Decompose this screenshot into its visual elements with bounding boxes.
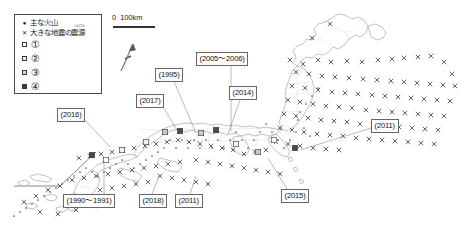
volcano-dot-icon bbox=[127, 163, 129, 165]
callout-c2015[interactable]: (2015) bbox=[281, 189, 309, 203]
region-hokkaido bbox=[293, 14, 386, 66]
earthquake-cross-icon bbox=[142, 166, 146, 170]
legend-rank-3-label: ③ bbox=[31, 68, 40, 78]
earthquake-cross-icon bbox=[435, 98, 439, 102]
legend-rank-1-label: ① bbox=[31, 40, 40, 50]
callout-c2018[interactable]: (2018) bbox=[139, 194, 167, 208]
map-screenshot: .coast{fill:#ffffff;stroke:#8f8f8f;strok… bbox=[0, 0, 464, 226]
earthquake-cross-icon bbox=[442, 114, 446, 118]
earthquake-cross-icon bbox=[441, 83, 445, 87]
square-rank-2-icon bbox=[19, 56, 30, 62]
earthquake-cross-icon bbox=[343, 91, 347, 95]
earthquake-cross-icon bbox=[416, 112, 420, 116]
square-rank-3-icon bbox=[162, 129, 167, 134]
volcano-dot-icon bbox=[247, 147, 249, 149]
earthquake-cross-icon bbox=[266, 170, 270, 174]
earthquake-cross-icon bbox=[154, 142, 158, 146]
volcano-dot-icon bbox=[31, 203, 33, 205]
earthquake-cross-icon bbox=[450, 72, 454, 76]
earthquake-cross-icon bbox=[410, 126, 414, 130]
earthquake-cross-icon bbox=[319, 118, 323, 122]
callout-leader-line bbox=[268, 158, 287, 189]
callout-c2005[interactable]: (2005〜2006) bbox=[196, 52, 248, 66]
earthquake-cross-icon bbox=[416, 55, 420, 59]
volcano-dot-icon bbox=[133, 167, 135, 169]
volcano-dot-icon bbox=[271, 131, 273, 133]
earthquake-cross-icon bbox=[329, 60, 333, 64]
volcano-dot-icon bbox=[163, 147, 165, 149]
earthquake-cross-icon bbox=[429, 54, 433, 58]
earthquake-cross-icon bbox=[315, 132, 319, 136]
earthquake-cross-icon bbox=[364, 108, 368, 112]
volcano-dot-icon bbox=[235, 131, 237, 133]
earthquake-cross-icon bbox=[198, 142, 202, 146]
volcano-dot-icon bbox=[309, 135, 311, 137]
callout-c1995[interactable]: (1995) bbox=[155, 68, 183, 82]
earthquake-cross-icon bbox=[290, 128, 294, 132]
earthquake-cross-icon bbox=[423, 127, 427, 131]
scale-labels: 0 100km bbox=[112, 14, 168, 21]
volcano-dot-icon bbox=[205, 139, 207, 141]
square-rank-2-icon bbox=[233, 141, 238, 146]
earthquake-cross-icon bbox=[298, 144, 302, 148]
earthquake-cross-icon bbox=[367, 137, 371, 141]
legend-rank-4-label: ④ bbox=[31, 82, 40, 92]
volcano-dot-icon bbox=[97, 175, 99, 177]
callout-leader-line bbox=[84, 119, 110, 147]
earthquake-cross-icon bbox=[230, 164, 234, 168]
volcano-dot-icon bbox=[121, 159, 123, 161]
callout-c1990[interactable]: (1990〜1991) bbox=[63, 194, 115, 208]
earthquake-cross-icon bbox=[350, 106, 354, 110]
scale-distance-label: 100km bbox=[120, 14, 142, 21]
earthquake-cross-icon bbox=[132, 146, 136, 150]
volcano-dot-icon bbox=[175, 147, 177, 149]
square-rank-1-icon bbox=[19, 42, 30, 48]
legend-item-earthquake: ✕ 大きな地震の震源 しんげん bbox=[19, 28, 97, 38]
callout-c2016[interactable]: (2016) bbox=[57, 108, 85, 122]
callout-c2014[interactable]: (2014) bbox=[229, 86, 257, 100]
callout-c2011r[interactable]: (2011) bbox=[371, 119, 399, 133]
callout-c2011b[interactable]: (2011) bbox=[175, 194, 203, 208]
earthquake-cross-icon bbox=[402, 80, 406, 84]
earthquake-cross-icon bbox=[187, 140, 191, 144]
volcano-dot-icon bbox=[305, 103, 307, 105]
volcano-dot-icon bbox=[283, 147, 285, 149]
volcano-dot-icon bbox=[49, 191, 51, 193]
earthquake-cross-icon bbox=[402, 56, 406, 60]
earthquake-cross-icon bbox=[354, 136, 358, 140]
legend-item-volcano: ● 主な火山 bbox=[19, 18, 97, 28]
callout-c2017[interactable]: (2017) bbox=[136, 94, 164, 108]
region-izu-islands bbox=[288, 157, 304, 184]
earthquake-cross-icon bbox=[324, 104, 328, 108]
scale-zero-label: 0 bbox=[112, 14, 116, 21]
earthquake-cross-icon bbox=[110, 150, 114, 154]
square-rank-1-icon bbox=[103, 157, 108, 162]
legend-label-volcano: 主な火山 bbox=[30, 19, 58, 26]
square-rank-3-icon bbox=[255, 149, 260, 154]
square-rank-2-icon bbox=[143, 139, 148, 144]
volcano-dot-icon bbox=[187, 147, 189, 149]
earthquake-cross-icon bbox=[428, 82, 432, 86]
earthquake-cross-icon bbox=[375, 78, 379, 82]
earthquake-cross-icon bbox=[328, 133, 332, 137]
volcano-dot-icon bbox=[277, 139, 279, 141]
volcano-dot-icon bbox=[151, 155, 153, 157]
volcano-dot-icon bbox=[297, 119, 299, 121]
volcano-dot-icon bbox=[61, 183, 63, 185]
earthquake-cross-icon bbox=[254, 168, 258, 172]
volcano-dot-icon: ● bbox=[19, 20, 30, 26]
volcano-dot-icon bbox=[109, 167, 111, 169]
earthquake-cross-icon bbox=[380, 138, 384, 142]
square-rank-4-icon bbox=[19, 84, 30, 90]
square-rank-2-icon bbox=[119, 147, 124, 152]
earthquake-cross-icon bbox=[38, 210, 42, 214]
earthquake-cross-icon bbox=[376, 58, 380, 62]
earthquake-cross-icon bbox=[361, 77, 365, 81]
earthquake-cross-icon bbox=[206, 182, 210, 186]
earthquake-cross-icon bbox=[419, 141, 423, 145]
earthquake-cross-icon bbox=[403, 111, 407, 115]
earthquake-cross-icon bbox=[182, 178, 186, 182]
earthquake-cross-icon bbox=[70, 178, 74, 182]
legend-rank-2-label: ② bbox=[31, 54, 40, 64]
map-scale: 0 100km bbox=[112, 14, 168, 28]
